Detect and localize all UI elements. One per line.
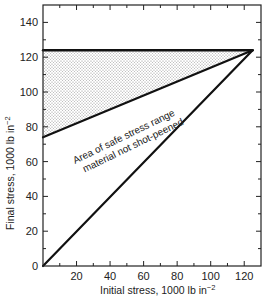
y-tick-label: 60 xyxy=(26,156,38,168)
y-tick-label: 80 xyxy=(26,121,38,133)
x-axis-label: Initial stress, 1000 lb in−2 xyxy=(100,283,215,296)
y-axis-label: Final stress, 1000 lb in−2 xyxy=(3,116,16,230)
y-tick-label: 40 xyxy=(26,190,38,202)
x-tick-label: 60 xyxy=(137,270,149,282)
x-tick-label: 20 xyxy=(70,270,82,282)
y-tick-label: 0 xyxy=(32,260,38,272)
x-tick-label: 120 xyxy=(235,270,253,282)
stress-chart: 20406080100120020406080100120140 Area of… xyxy=(0,0,270,302)
y-tick-label: 20 xyxy=(26,225,38,237)
y-tick-label: 120 xyxy=(20,51,38,63)
y-tick-label: 140 xyxy=(20,16,38,28)
y-tick-label: 100 xyxy=(20,86,38,98)
x-tick-label: 40 xyxy=(104,270,116,282)
x-tick-label: 80 xyxy=(171,270,183,282)
x-tick-label: 100 xyxy=(202,270,220,282)
